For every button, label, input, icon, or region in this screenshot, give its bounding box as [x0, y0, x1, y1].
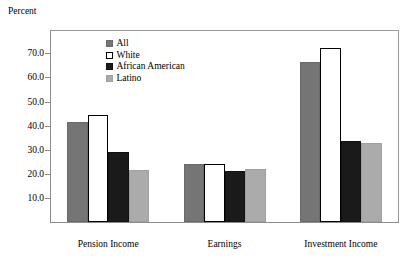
- y-axis-tick-label: 70.0: [0, 48, 44, 58]
- bar-chart: Percent 10.020.030.040.050.060.070.0 Pen…: [0, 0, 409, 270]
- bar: [300, 62, 321, 222]
- bar-group: [300, 30, 382, 222]
- y-axis-tick-mark: [45, 77, 51, 78]
- y-axis-tick-mark: [45, 53, 51, 54]
- x-axis-category-label: Pension Income: [50, 239, 166, 250]
- x-axis-category-label: Earnings: [166, 239, 282, 250]
- chart-legend: AllWhiteAfrican AmericanLatino: [106, 38, 185, 84]
- legend-swatch-icon: [106, 63, 113, 70]
- y-axis-tick-label: 10.0: [0, 193, 44, 203]
- y-axis-tick-label: 40.0: [0, 121, 44, 131]
- bar: [225, 171, 246, 222]
- y-axis-title: Percent: [8, 6, 37, 17]
- y-axis-tick-mark: [45, 174, 51, 175]
- legend-item: All: [106, 38, 185, 50]
- y-axis-tick-mark: [45, 126, 51, 127]
- legend-item: White: [106, 50, 185, 62]
- bar: [108, 152, 129, 222]
- bar: [245, 169, 266, 222]
- legend-item: Latino: [106, 73, 185, 85]
- bar: [184, 164, 205, 222]
- y-axis-tick-label: 50.0: [0, 97, 44, 107]
- legend-item-label: All: [117, 38, 129, 50]
- legend-item-label: White: [117, 50, 140, 62]
- y-axis-tick-mark: [45, 102, 51, 103]
- y-axis-tick-label: 20.0: [0, 169, 44, 179]
- y-axis-tick-label: 60.0: [0, 72, 44, 82]
- bar: [341, 141, 362, 222]
- bar: [88, 115, 109, 222]
- x-axis-line: [50, 222, 399, 223]
- legend-swatch-icon: [106, 75, 113, 82]
- y-axis-tick-mark: [45, 198, 51, 199]
- legend-item-label: African American: [117, 61, 185, 73]
- x-axis-category-label: Investment Income: [283, 239, 399, 250]
- legend-swatch-icon: [106, 52, 113, 59]
- bar: [67, 122, 88, 222]
- y-axis-tick-mark: [45, 150, 51, 151]
- y-axis-tick-label: 30.0: [0, 145, 44, 155]
- bar: [204, 164, 225, 222]
- bar: [361, 143, 382, 222]
- legend-item-label: Latino: [117, 73, 142, 85]
- bar: [320, 48, 341, 222]
- bar-group: [184, 30, 266, 222]
- bar: [129, 170, 150, 222]
- legend-item: African American: [106, 61, 185, 73]
- legend-swatch-icon: [106, 40, 113, 47]
